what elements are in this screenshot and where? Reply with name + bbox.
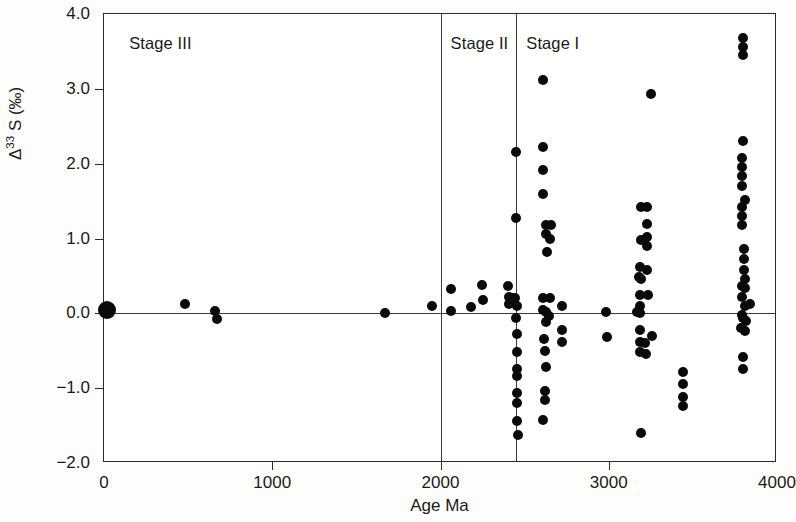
data-point bbox=[678, 367, 688, 377]
data-point bbox=[446, 284, 456, 294]
y-axis-title: Δ33 S (‰) bbox=[4, 10, 26, 160]
data-point bbox=[601, 307, 611, 317]
data-point bbox=[513, 430, 523, 440]
data-point bbox=[542, 247, 552, 257]
data-point bbox=[739, 244, 749, 254]
plot-area: −2.0−1.00.01.02.03.04.0 0100020003000400… bbox=[103, 13, 776, 462]
data-point bbox=[512, 301, 522, 311]
data-point bbox=[380, 308, 390, 318]
data-point bbox=[545, 293, 555, 303]
data-point bbox=[538, 142, 548, 152]
data-point bbox=[512, 416, 522, 426]
y-tick-label-4.0: 4.0 bbox=[66, 4, 90, 24]
data-point bbox=[641, 349, 651, 359]
y-tick-label-1.0: 1.0 bbox=[66, 229, 90, 249]
y-axis-title-superscript: 33 bbox=[4, 136, 16, 149]
data-point bbox=[538, 189, 548, 199]
x-axis-title: Age Ma bbox=[103, 496, 776, 516]
data-point bbox=[212, 314, 222, 324]
data-point bbox=[635, 325, 645, 335]
data-point bbox=[738, 136, 748, 146]
data-point bbox=[557, 301, 567, 311]
stage-ii-label: Stage II bbox=[451, 35, 509, 52]
data-point bbox=[557, 325, 567, 335]
x-tick-label-4000: 4000 bbox=[758, 473, 796, 493]
data-point bbox=[737, 220, 747, 230]
data-point bbox=[646, 89, 656, 99]
data-point bbox=[745, 299, 755, 309]
data-point bbox=[446, 306, 456, 316]
data-point bbox=[538, 75, 548, 85]
data-point bbox=[466, 302, 476, 312]
y-tick-2.0 bbox=[95, 164, 104, 165]
data-point bbox=[512, 329, 522, 339]
data-point bbox=[180, 299, 190, 309]
data-point bbox=[503, 281, 513, 291]
y-tick-label--1.0: −1.0 bbox=[56, 378, 90, 398]
x-tick-label-3000: 3000 bbox=[590, 473, 628, 493]
data-point bbox=[737, 171, 747, 181]
data-point bbox=[642, 265, 652, 275]
data-point bbox=[511, 313, 521, 323]
data-point bbox=[636, 274, 646, 284]
data-point bbox=[739, 254, 749, 264]
x-tick-2000 bbox=[441, 461, 442, 470]
x-tick-1000 bbox=[272, 461, 273, 470]
data-point bbox=[678, 379, 688, 389]
data-point bbox=[602, 332, 612, 342]
data-point bbox=[541, 362, 551, 372]
x-tick-3000 bbox=[609, 461, 610, 470]
data-point bbox=[545, 234, 555, 244]
y-tick-label-2.0: 2.0 bbox=[66, 154, 90, 174]
y-tick-label-3.0: 3.0 bbox=[66, 79, 90, 99]
y-tick-3.0 bbox=[95, 89, 104, 90]
stage-iii-ii-divider bbox=[441, 14, 442, 461]
data-point bbox=[511, 147, 521, 157]
data-point bbox=[512, 388, 522, 398]
data-point bbox=[541, 317, 551, 327]
data-point bbox=[642, 219, 652, 229]
data-point bbox=[738, 364, 748, 374]
x-tick-label-0: 0 bbox=[99, 473, 108, 493]
data-point bbox=[540, 395, 550, 405]
data-point bbox=[635, 308, 645, 318]
data-point bbox=[477, 280, 487, 290]
y-axis-title-delta: Δ bbox=[6, 149, 25, 160]
data-point bbox=[642, 241, 652, 251]
data-point bbox=[737, 181, 747, 191]
data-point bbox=[643, 290, 653, 300]
stage-i-label: Stage I bbox=[526, 35, 579, 52]
y-tick-label--2.0: −2.0 bbox=[56, 453, 90, 473]
y-tick--1.0 bbox=[95, 388, 104, 389]
data-point bbox=[98, 301, 116, 319]
data-point bbox=[678, 401, 688, 411]
data-point bbox=[540, 346, 550, 356]
data-point bbox=[738, 352, 748, 362]
data-point bbox=[511, 213, 521, 223]
data-point bbox=[557, 337, 567, 347]
y-axis-title-rest: S (‰) bbox=[6, 87, 25, 136]
data-point bbox=[738, 50, 748, 60]
data-point bbox=[538, 165, 548, 175]
data-point bbox=[512, 347, 522, 357]
data-point bbox=[427, 301, 437, 311]
x-tick-label-1000: 1000 bbox=[253, 473, 291, 493]
data-point bbox=[512, 371, 522, 381]
data-point bbox=[642, 202, 652, 212]
y-tick-label-0.0: 0.0 bbox=[66, 303, 90, 323]
data-point bbox=[538, 415, 548, 425]
zero-line bbox=[104, 313, 775, 314]
data-point bbox=[647, 331, 657, 341]
data-point bbox=[636, 428, 646, 438]
data-point bbox=[740, 326, 750, 336]
data-point bbox=[478, 295, 488, 305]
data-point bbox=[512, 398, 522, 408]
stage-iii-label: Stage III bbox=[129, 35, 191, 52]
data-point bbox=[539, 334, 549, 344]
y-tick-1.0 bbox=[95, 239, 104, 240]
x-tick-label-2000: 2000 bbox=[422, 473, 460, 493]
